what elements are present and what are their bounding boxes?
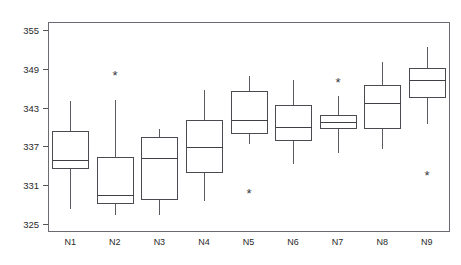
box-plot-item	[187, 90, 223, 201]
box-plot-chart: 325331337343349355 N1N2N3N4N5N6N7N8N9 **…	[0, 0, 461, 265]
box-iqr	[53, 132, 89, 169]
y-axis-tick-label: 349	[23, 64, 39, 75]
box-plot-item: *	[98, 68, 134, 214]
outlier-marker: *	[112, 68, 117, 83]
y-axis-tick-label: 343	[23, 103, 39, 114]
box-plot-item	[53, 101, 89, 209]
box-plot-item	[365, 62, 401, 149]
x-axis-category-label: N9	[421, 237, 433, 247]
x-axis-category-labels: N1N2N3N4N5N6N7N8N9	[65, 237, 433, 247]
plot-area: 325331337343349355 N1N2N3N4N5N6N7N8N9 **…	[0, 0, 461, 265]
box-iqr	[98, 158, 134, 204]
box-iqr	[276, 106, 312, 141]
outlier-marker: *	[246, 186, 251, 201]
x-axis-category-label: N3	[154, 237, 166, 247]
box-iqr	[232, 92, 268, 134]
box-iqr	[142, 138, 178, 200]
x-axis-category-label: N5	[243, 237, 255, 247]
box-plot-item	[276, 80, 312, 164]
y-axis-tick-label: 337	[23, 141, 39, 152]
x-axis-category-label: N1	[65, 237, 77, 247]
outlier-marker: *	[424, 168, 429, 183]
box-plot-item: *	[321, 75, 357, 152]
x-axis-category-label: N4	[198, 237, 210, 247]
x-axis-category-label: N7	[332, 237, 344, 247]
y-axis-tick-label: 355	[23, 25, 39, 36]
x-axis-category-label: N8	[376, 237, 388, 247]
box-plot-item: *	[410, 47, 446, 183]
x-axis-category-label: N6	[287, 237, 299, 247]
x-axis-category-label: N2	[109, 237, 121, 247]
box-series: ****	[53, 47, 446, 215]
box-plot-item	[142, 129, 178, 215]
box-iqr	[410, 69, 446, 98]
box-iqr	[365, 86, 401, 129]
y-axis-ticks: 325331337343349355	[23, 25, 48, 230]
y-axis-tick-label: 325	[23, 219, 39, 230]
y-axis-tick-label: 331	[23, 180, 39, 191]
outlier-marker: *	[335, 75, 340, 90]
box-plot-item: *	[232, 76, 268, 201]
box-iqr	[187, 121, 223, 173]
